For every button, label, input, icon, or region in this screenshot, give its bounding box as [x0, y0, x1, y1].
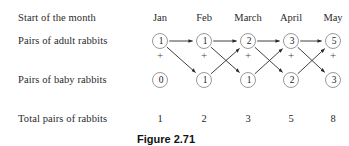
- adult-rabbits-node: 5: [325, 33, 341, 49]
- adult-rabbits-node: 1: [196, 33, 212, 49]
- arrow-diagonal-down: [298, 47, 325, 72]
- baby-rabbits-node-value: 1: [197, 73, 213, 89]
- arrow-diagonal-up: [298, 49, 325, 74]
- baby-rabbits-node-value: 0: [153, 73, 169, 89]
- fibonacci-rabbit-diagram: Start of the monthPairs of adult rabbits…: [0, 0, 349, 146]
- month-header-feb: Feb: [196, 12, 212, 23]
- total-value: 2: [201, 113, 206, 124]
- figure-caption: Figure 2.71: [137, 133, 195, 145]
- month-header-may: May: [323, 12, 342, 23]
- arrow-diagonal-down: [167, 47, 196, 72]
- plus-sign: +: [245, 50, 251, 61]
- plus-sign: +: [157, 50, 163, 61]
- row-label: Start of the month: [18, 12, 96, 23]
- month-header-jan: Jan: [153, 12, 167, 23]
- month-header-march: March: [234, 12, 261, 23]
- baby-rabbits-node-value: 3: [326, 73, 342, 89]
- total-value: 1: [157, 113, 162, 124]
- row-label: Pairs of baby rabbits: [18, 74, 107, 85]
- row-label: Total pairs of rabbits: [18, 113, 107, 124]
- plus-sign: +: [330, 50, 336, 61]
- baby-rabbits-node: 2: [283, 72, 299, 88]
- month-header-april: April: [280, 12, 302, 23]
- arrow-diagonal-down: [255, 47, 283, 72]
- adult-rabbits-node: 1: [152, 33, 168, 49]
- total-value: 5: [288, 113, 293, 124]
- total-value: 3: [245, 113, 250, 124]
- baby-rabbits-node-value: 1: [241, 73, 257, 89]
- row-label: Pairs of adult rabbits: [18, 35, 107, 46]
- baby-rabbits-node: 0: [152, 72, 168, 88]
- adult-rabbits-node: 2: [240, 33, 256, 49]
- arrow-diagonal-up: [255, 49, 283, 74]
- plus-sign: +: [201, 50, 207, 61]
- arrow-diagonal-up: [211, 49, 240, 74]
- baby-rabbits-node: 1: [240, 72, 256, 88]
- total-value: 8: [330, 113, 335, 124]
- adult-rabbits-node: 3: [283, 33, 299, 49]
- plus-sign: +: [288, 50, 294, 61]
- baby-rabbits-node: 1: [196, 72, 212, 88]
- baby-rabbits-node: 3: [325, 72, 341, 88]
- baby-rabbits-node-value: 2: [284, 73, 300, 89]
- arrow-diagonal-down: [211, 47, 240, 72]
